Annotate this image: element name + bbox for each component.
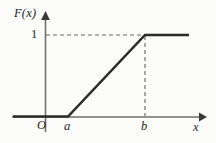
- x-tick-label-a: a: [64, 120, 70, 133]
- cdf-curve: [13, 35, 189, 117]
- y-tick-label-one: 1: [31, 28, 37, 41]
- y-axis-label: F(x): [14, 7, 36, 20]
- plot-canvas: [0, 0, 216, 143]
- origin-label: O: [37, 119, 46, 132]
- x-tick-label-b: b: [141, 120, 147, 133]
- y-axis-arrowhead: [41, 11, 50, 20]
- cdf-figure: F(x) 1 O a b x: [0, 0, 216, 143]
- x-axis-arrowhead: [199, 113, 207, 122]
- x-axis-label: x: [193, 121, 199, 134]
